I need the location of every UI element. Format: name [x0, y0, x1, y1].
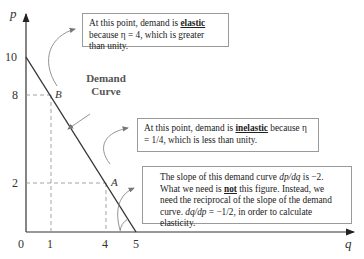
slope-text-1: The slope of this demand curve [160, 172, 279, 182]
slope-angle-arc [120, 219, 128, 232]
demand-curve-label-line1: Demand [76, 72, 136, 85]
inelastic-emphasis: inelastic [235, 123, 268, 133]
demand-label-arrow [68, 114, 90, 129]
elastic-text-pre: At this point, demand is [89, 18, 180, 28]
elastic-callout-arrow [49, 29, 75, 86]
elastic-emphasis: elastic [180, 18, 205, 28]
x-tick-4: 4 [102, 238, 108, 250]
y-tick-2: 2 [12, 177, 18, 189]
x-tick-1: 1 [47, 238, 53, 250]
slope-math-dpdq: dp/dq [279, 172, 300, 182]
demand-curve-label: Demand Curve [76, 72, 136, 98]
inelastic-callout-box: At this point, demand is inelastic becau… [137, 118, 319, 152]
guide-lines [26, 95, 106, 232]
slope-math-dqdp: dq/dp [185, 207, 206, 217]
inelastic-text-pre: At this point, demand is [144, 123, 235, 133]
demand-curve-label-line2: Curve [76, 85, 136, 98]
point-b-label: B [55, 88, 62, 100]
slope-callout-box: The slope of this demand curve dp/dq is … [142, 166, 352, 224]
x-axis-label: q [345, 238, 352, 250]
elastic-callout-box: At this point, demand is elastic because… [82, 13, 229, 47]
x-tick-5: 5 [133, 238, 139, 250]
inelastic-callout-arrow [104, 128, 128, 164]
y-tick-10: 10 [5, 51, 17, 63]
slope-emphasis: not [224, 184, 237, 194]
point-a-label: A [111, 176, 118, 188]
y-tick-8: 8 [12, 89, 18, 101]
y-axis-label: p [10, 8, 17, 20]
x-tick-0: 0 [18, 238, 24, 250]
